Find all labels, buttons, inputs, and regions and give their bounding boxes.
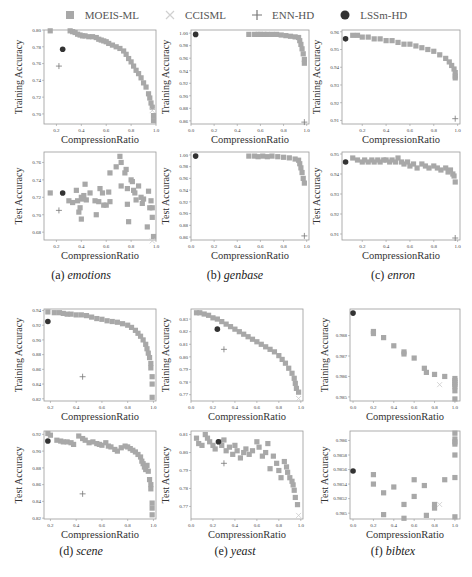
x-axis-label: CompressionRatio xyxy=(61,411,139,422)
x-tick-label: 0.2 xyxy=(359,244,366,249)
y-axis-label: Test Accuracy xyxy=(319,447,330,504)
moeis-ml-point xyxy=(146,469,151,474)
x-tick-label: 0.8 xyxy=(276,523,283,528)
y-tick-label: 0.82 xyxy=(179,329,188,334)
y-tick-label: 0.81 xyxy=(179,342,188,347)
x-tick-label: 0.4 xyxy=(391,405,398,410)
y-axis-label: Test Accuracy xyxy=(311,168,322,225)
y-axis-label: Training Accuracy xyxy=(160,318,171,392)
y-tick-label: 0.90 xyxy=(179,94,188,99)
moeis-ml-point xyxy=(227,445,232,450)
moeis-ml-point xyxy=(371,472,376,477)
moeis-ml-point xyxy=(401,516,406,521)
moeis-ml-point xyxy=(148,365,153,370)
x-tick-label: 0.0 xyxy=(188,128,195,133)
moeis-ml-point xyxy=(48,28,53,33)
moeis-ml-point xyxy=(298,165,303,170)
y-tick-label: 0.74 xyxy=(32,178,41,183)
x-tick-label: 0.8 xyxy=(431,244,438,249)
moeis-ml-point xyxy=(285,470,290,475)
moeis-ml-point xyxy=(452,388,457,393)
y-tick-label: 0.78 xyxy=(32,45,41,50)
x-tick-label: 0.4 xyxy=(383,128,390,133)
moeis-ml-point xyxy=(438,167,443,172)
moeis-ml-point xyxy=(451,173,456,178)
y-tick-label: 0.9854 xyxy=(333,482,347,487)
y-tick-label: 0.79 xyxy=(179,468,188,473)
moeis-ml-point xyxy=(283,33,288,38)
moeis-ml-point xyxy=(282,459,287,464)
chart-enron-train: 0.20.40.60.81.00.910.920.930.940.950.96C… xyxy=(310,24,468,158)
y-axis-label: Training Accuracy xyxy=(160,40,171,114)
moeis-ml-point xyxy=(287,155,292,160)
moeis-ml-point xyxy=(126,219,131,224)
moeis-ml-point xyxy=(238,455,243,460)
moeis-ml-point xyxy=(150,500,155,505)
y-tick-label: 0.88 xyxy=(32,466,41,471)
moeis-ml-point xyxy=(265,32,270,37)
moeis-ml-point xyxy=(401,502,406,507)
moeis-ml-point xyxy=(148,486,153,491)
moeis-ml-point xyxy=(412,477,417,482)
moeis-ml-point xyxy=(424,513,429,518)
x-tick-label: 1.0 xyxy=(298,523,305,528)
y-tick-label: 0.70 xyxy=(32,112,41,117)
moeis-ml-point xyxy=(412,355,417,360)
moeis-ml-point xyxy=(350,33,355,38)
y-tick-label: 0.78 xyxy=(179,486,188,491)
y-tick-label: 0.94 xyxy=(330,172,339,177)
y-tick-label: 0.9856 xyxy=(333,467,347,472)
moeis-ml-point xyxy=(104,318,109,323)
moeis-ml-point xyxy=(106,189,111,194)
moeis-ml-point xyxy=(422,483,427,488)
y-tick-label: 0.70 xyxy=(32,213,41,218)
moeis-ml-point xyxy=(107,199,112,204)
moeis-ml-point xyxy=(442,374,447,379)
moeis-ml-point xyxy=(213,446,218,451)
moeis-ml-point xyxy=(301,176,306,181)
moeis-ml-point xyxy=(431,49,436,54)
caption-genbase: (b) genbase xyxy=(160,268,310,283)
moeis-ml-point xyxy=(48,433,53,438)
x-axis-label: CompressionRatio xyxy=(208,411,286,422)
x-tick-label: 0.2 xyxy=(53,128,60,133)
moeis-ml-point xyxy=(453,179,458,184)
legend-item-enn-hd: ENN-HD xyxy=(252,9,314,21)
moeis-ml-point xyxy=(194,436,199,441)
y-tick-label: 0.82 xyxy=(32,397,41,402)
moeis-ml-point xyxy=(355,33,360,38)
moeis-ml-point xyxy=(355,157,360,162)
moeis-ml-point xyxy=(150,374,155,379)
y-tick-label: 0.985 xyxy=(336,395,348,400)
moeis-ml-point xyxy=(267,466,272,471)
x-tick-label: 0.8 xyxy=(128,128,135,133)
moeis-ml-point xyxy=(395,40,400,45)
moeis-ml-point xyxy=(263,450,268,455)
x-tick-label: 0.2 xyxy=(211,244,218,249)
x-tick-label: 0.2 xyxy=(47,405,54,410)
moeis-ml-point xyxy=(120,321,125,326)
moeis-ml-point xyxy=(133,197,138,202)
moeis-ml-point xyxy=(77,205,82,210)
x-tick-label: 0.6 xyxy=(407,244,414,249)
plot-area xyxy=(44,309,156,401)
y-tick-label: 0.77 xyxy=(179,392,188,397)
plus-marker-icon xyxy=(252,10,262,20)
moeis-ml-point xyxy=(292,488,297,493)
y-tick-label: 0.83 xyxy=(179,317,188,322)
x-tick-label: 0.2 xyxy=(370,523,377,528)
moeis-ml-point xyxy=(366,34,371,39)
square-marker-icon xyxy=(65,10,75,20)
moeis-ml-point xyxy=(150,512,155,517)
x-tick-label: 0.4 xyxy=(73,405,80,410)
moeis-ml-point xyxy=(284,464,289,469)
y-tick-label: 0.98 xyxy=(179,43,188,48)
lssm-hd-point xyxy=(193,153,199,159)
plot-area xyxy=(191,152,309,240)
y-tick-label: 0.98 xyxy=(179,164,188,169)
x-tick-label: 0.6 xyxy=(103,244,110,249)
circle-marker-icon xyxy=(340,10,350,20)
moeis-ml-point xyxy=(419,45,424,50)
moeis-ml-point xyxy=(360,34,365,39)
x-tick-label: 0.8 xyxy=(280,128,287,133)
